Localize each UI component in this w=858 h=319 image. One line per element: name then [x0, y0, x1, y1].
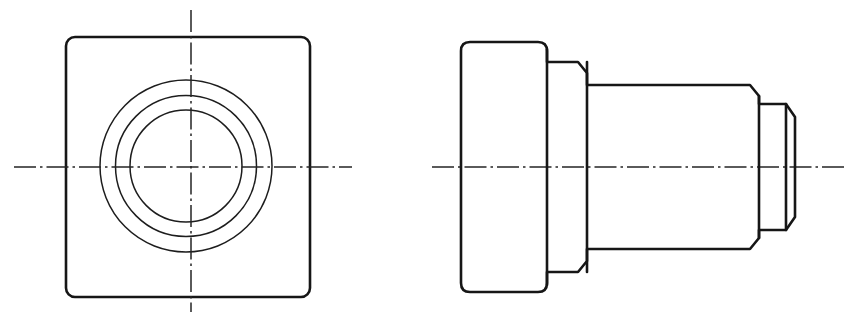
middle-circle [116, 96, 257, 237]
inner-circle [130, 110, 242, 222]
outer-circle [100, 80, 272, 252]
drawing-sheet [0, 0, 858, 319]
front-view [66, 10, 310, 312]
technical-drawing-canvas [0, 0, 858, 319]
